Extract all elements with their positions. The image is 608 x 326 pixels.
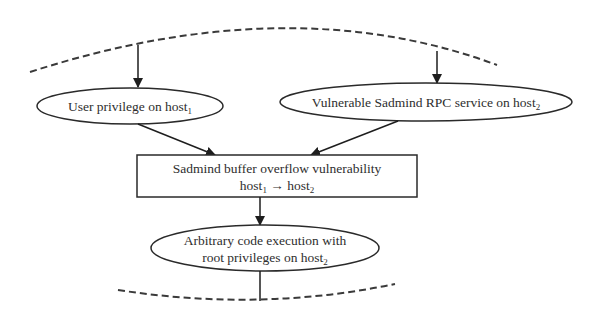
svg-text:Vulnerable Sadmind RPC service: Vulnerable Sadmind RPC service on host2 (312, 95, 540, 112)
svg-text:host1 → host2: host1 → host2 (240, 178, 314, 195)
upper-graph-boundary (30, 28, 497, 72)
node-user-privilege[interactable]: User privilege on host1 (37, 88, 223, 124)
edge-user-privilege-to-exploit (138, 124, 215, 155)
node-vulnerable-service[interactable]: Vulnerable Sadmind RPC service on host2 (280, 83, 572, 121)
vulnerable-service-subscript: 2 (536, 102, 541, 112)
exploit-target-host: host (287, 178, 310, 193)
user-privilege-subscript: 1 (188, 106, 193, 116)
exploit-target-subscript: 2 (310, 185, 315, 195)
exploit-arrow: → (267, 178, 287, 193)
edge-vulnerable-service-to-exploit (311, 121, 398, 155)
code-execution-line2: root privileges on host (202, 250, 323, 265)
lower-graph-boundary (118, 284, 395, 300)
vulnerable-service-label: Vulnerable Sadmind RPC service on host (312, 95, 536, 110)
svg-text:root privileges on host2: root privileges on host2 (202, 250, 328, 267)
user-privilege-label: User privilege on host (68, 99, 188, 114)
svg-text:User privilege on host1: User privilege on host1 (68, 99, 192, 116)
exploit-source-host: host (240, 178, 263, 193)
exploit-line1: Sadmind buffer overflow vulnerability (173, 161, 382, 176)
attack-graph-diagram: User privilege on host1 Vulnerable Sadmi… (0, 0, 608, 326)
code-execution-line1: Arbitrary code execution with (184, 233, 347, 248)
node-exploit[interactable]: Sadmind buffer overflow vulnerability ho… (137, 155, 417, 197)
code-execution-subscript: 2 (323, 257, 328, 267)
node-code-execution[interactable]: Arbitrary code execution with root privi… (151, 225, 379, 271)
